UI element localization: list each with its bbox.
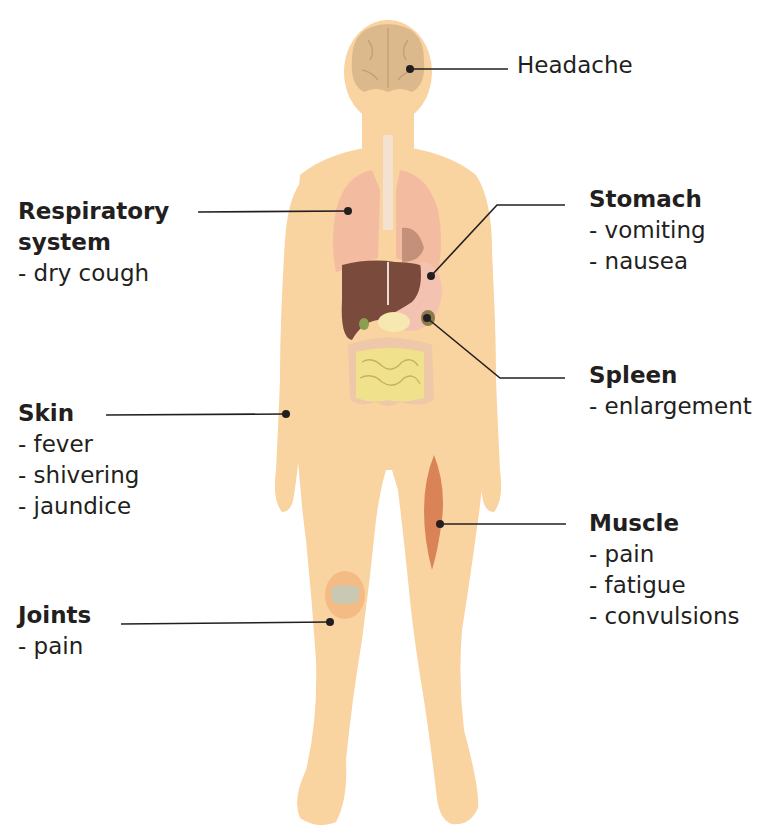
- label-stomach: Stomach - vomiting - nausea: [589, 184, 706, 277]
- symptom-item: - jaundice: [18, 491, 139, 522]
- label-skin: Skin - fever - shivering - jaundice: [18, 398, 139, 522]
- label-title: Skin: [18, 398, 139, 429]
- symptom-item: - convulsions: [589, 601, 740, 632]
- pancreas-icon: [378, 312, 410, 332]
- symptom-item: - dry cough: [18, 258, 169, 289]
- label-joints: Joints - pain: [18, 600, 91, 662]
- symptom-item: - pain: [18, 631, 91, 662]
- trachea-icon: [383, 135, 393, 230]
- symptom-item: - shivering: [18, 460, 139, 491]
- label-title: Stomach: [589, 184, 706, 215]
- small-intestine-icon: [356, 348, 424, 402]
- label-title: Joints: [18, 600, 91, 631]
- brain-icon: [352, 24, 425, 92]
- label-respiratory-system: Respiratory system - dry cough: [18, 196, 169, 289]
- symptom-item: - fatigue: [589, 570, 740, 601]
- symptom-item: - pain: [589, 539, 740, 570]
- label-title-line2: system: [18, 227, 169, 258]
- label-muscle: Muscle - pain - fatigue - convulsions: [589, 508, 740, 632]
- symptom-item: - fever: [18, 429, 139, 460]
- symptom-item: - enlargement: [589, 391, 752, 422]
- symptom-item: - nausea: [589, 246, 706, 277]
- label-spleen: Spleen - enlargement: [589, 360, 752, 422]
- label-title: Headache: [517, 50, 633, 81]
- label-title: Respiratory: [18, 196, 169, 227]
- gallbladder-icon: [359, 318, 369, 330]
- knee-joint-icon: [325, 571, 365, 619]
- label-title: Muscle: [589, 508, 740, 539]
- label-title: Spleen: [589, 360, 752, 391]
- label-headache: Headache: [517, 50, 633, 81]
- symptom-item: - vomiting: [589, 215, 706, 246]
